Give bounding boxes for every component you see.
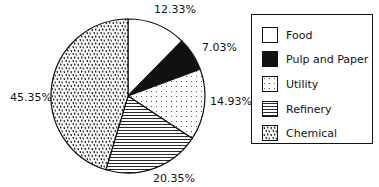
swatch-food xyxy=(262,27,278,43)
legend-item-utility: Utility xyxy=(262,76,318,92)
legend-item-refinery: Refinery xyxy=(262,101,332,117)
slice-label-pulp-and-paper: 7.03% xyxy=(202,41,237,54)
slice-label-chemical: 45.35% xyxy=(10,91,52,104)
legend: Food Pulp and Paper Utility Refinery Che… xyxy=(251,14,373,144)
legend-item-pulp-and-paper: Pulp and Paper xyxy=(262,51,368,67)
legend-item-food: Food xyxy=(262,27,312,43)
swatch-chemical xyxy=(262,125,278,141)
swatch-pulp-and-paper xyxy=(262,51,278,67)
slice-label-utility: 14.93% xyxy=(210,95,252,108)
swatch-utility xyxy=(262,76,278,92)
legend-item-chemical: Chemical xyxy=(262,125,337,141)
slice-label-food: 12.33% xyxy=(154,3,196,16)
swatch-refinery xyxy=(262,101,278,117)
slice-label-refinery: 20.35% xyxy=(153,172,195,185)
